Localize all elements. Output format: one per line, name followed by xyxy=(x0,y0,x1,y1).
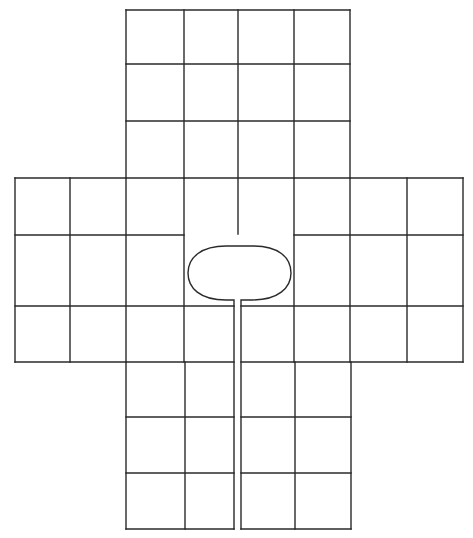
board-cell[interactable] xyxy=(294,121,350,178)
board-cell[interactable] xyxy=(184,64,238,121)
game-board xyxy=(0,0,473,538)
board-cell[interactable] xyxy=(184,121,238,178)
board-cell[interactable] xyxy=(126,64,184,121)
board-cell[interactable] xyxy=(238,10,294,64)
board-cell[interactable] xyxy=(126,121,184,178)
center-home-oval[interactable] xyxy=(188,246,291,529)
board-cell[interactable] xyxy=(294,10,350,64)
board-cell[interactable] xyxy=(126,10,184,64)
board-cell[interactable] xyxy=(184,10,238,64)
board-cell[interactable] xyxy=(294,64,350,121)
board-cell[interactable] xyxy=(238,64,294,121)
board-cell[interactable] xyxy=(238,121,294,178)
